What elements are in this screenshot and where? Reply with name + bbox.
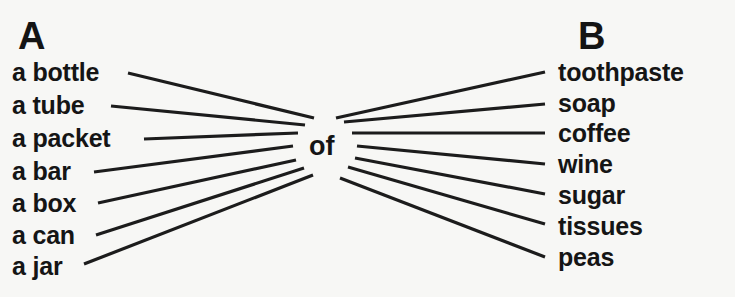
line-a-jar: [84, 175, 313, 264]
matching-exercise: A a bottle a tube a packet a bar a box a…: [0, 0, 735, 297]
column-b-item: peas: [558, 243, 614, 271]
line-wine: [357, 146, 545, 164]
column-b-item: wine: [558, 150, 613, 178]
column-b-item: soap: [558, 89, 616, 117]
column-a-heading: A: [18, 17, 45, 55]
column-a-item: a packet: [12, 124, 110, 152]
column-a-item: a box: [12, 189, 76, 217]
line-soap: [344, 104, 545, 122]
column-b-item: tissues: [558, 212, 643, 240]
column-a-item: a bar: [12, 157, 71, 185]
line-toothpaste: [336, 72, 545, 118]
line-a-can: [96, 168, 304, 235]
line-peas: [340, 178, 545, 257]
connector-word: of: [309, 132, 334, 160]
column-b-item: sugar: [558, 181, 625, 209]
column-b-item: coffee: [558, 119, 630, 147]
column-a-item: a jar: [12, 252, 62, 280]
column-a-item: a tube: [12, 91, 84, 119]
column-b-item: toothpaste: [558, 58, 684, 86]
column-a-item: a can: [12, 221, 75, 249]
column-b-heading: B: [578, 17, 605, 55]
line-a-packet: [144, 133, 298, 139]
column-a-item: a bottle: [12, 58, 99, 86]
